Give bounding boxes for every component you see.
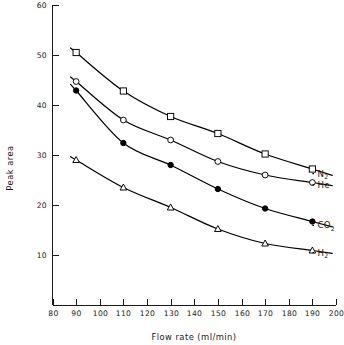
data-point-n2-90: [73, 49, 79, 55]
legend-label-he: He: [318, 180, 330, 190]
y-tick-label: 40: [37, 101, 47, 110]
y-axis-ticks: [53, 6, 59, 256]
x-tick-label: 140: [187, 309, 202, 318]
legend-label-subscript: 2: [324, 252, 328, 259]
data-point-n2-170: [262, 151, 268, 157]
y-tick-label: 10: [37, 251, 47, 260]
y-axis-tick-labels: 102030405060: [37, 1, 47, 260]
legend-label-h2: H2: [318, 248, 329, 259]
data-point-he-170: [262, 172, 268, 178]
y-tick-label: 60: [37, 1, 47, 10]
x-tick-label: 170: [258, 309, 273, 318]
x-tick-label: 80: [48, 309, 58, 318]
x-axis-ticks: [54, 299, 337, 305]
legend-label-subscript: 2: [324, 173, 328, 180]
data-point-n2-150: [215, 130, 221, 136]
x-tick-label: 100: [93, 309, 108, 318]
data-point-h2-110: [120, 184, 127, 190]
legend-label-n2: N2: [318, 169, 329, 180]
y-axis-title: Peak area: [5, 145, 15, 190]
x-tick-label: 200: [329, 309, 344, 318]
data-point-he-150: [215, 159, 221, 165]
series-curve-he: [71, 77, 333, 186]
series-curve-co2: [71, 84, 333, 227]
series-curve-h2: [71, 157, 333, 254]
data-point-co2-90: [73, 88, 78, 93]
series-legend: N2HeCO2H2: [312, 169, 335, 259]
data-point-h2-90: [73, 157, 80, 163]
data-point-co2-150: [215, 186, 220, 191]
y-tick-label: 30: [37, 151, 47, 160]
x-tick-label: 150: [211, 309, 226, 318]
y-tick-label: 50: [37, 51, 47, 60]
x-tick-label: 110: [116, 309, 131, 318]
x-tick-label: 90: [71, 309, 81, 318]
data-point-co2-190: [310, 219, 315, 224]
x-tick-label: 190: [305, 309, 320, 318]
x-tick-label: 160: [235, 309, 250, 318]
x-tick-label: 130: [164, 309, 179, 318]
x-axis-tick-labels: 8090100110120130140150160170180190200: [48, 309, 344, 318]
chart-container: 8090100110120130140150160170180190200 10…: [0, 0, 344, 345]
data-point-he-110: [120, 117, 126, 123]
x-axis-title: Flow rate (ml/min): [151, 332, 236, 342]
legend-label-co2: CO2: [318, 220, 335, 231]
series-curve-n2: [71, 48, 333, 175]
x-tick-label: 120: [140, 309, 155, 318]
data-point-n2-130: [168, 113, 174, 119]
data-point-co2-170: [262, 206, 267, 211]
axis-lines: [53, 5, 337, 306]
data-point-he-130: [168, 137, 174, 143]
legend-label-subscript: 2: [331, 225, 335, 232]
data-point-co2-110: [121, 140, 126, 145]
data-point-n2-110: [120, 88, 126, 94]
data-point-n2-190: [309, 166, 315, 172]
x-tick-label: 180: [282, 309, 297, 318]
data-point-co2-130: [168, 162, 173, 167]
y-tick-label: 20: [37, 201, 47, 210]
data-point-he-90: [73, 79, 79, 85]
series-curves: [71, 48, 333, 253]
peak-area-vs-flow-rate-chart: 8090100110120130140150160170180190200 10…: [0, 0, 344, 345]
